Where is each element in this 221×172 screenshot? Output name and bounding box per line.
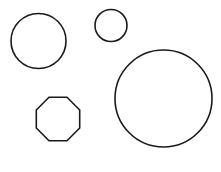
shapes-canvas: [0, 0, 221, 172]
shape-svg: [0, 0, 221, 172]
canvas-background: [0, 0, 221, 172]
